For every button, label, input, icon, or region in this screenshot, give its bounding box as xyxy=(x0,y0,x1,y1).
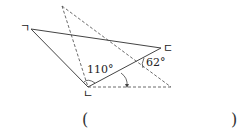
angle-label-110: 110° xyxy=(87,64,114,75)
angle-label-62: 62° xyxy=(146,57,166,68)
solid-triangle xyxy=(31,29,161,87)
triangle-diagram xyxy=(0,0,239,136)
dashed-left-edge xyxy=(62,6,88,87)
answer-close-paren: ) xyxy=(231,112,237,128)
answer-open-paren: ( xyxy=(82,112,88,128)
vertex-label-c: ㄷ xyxy=(163,43,173,54)
vertex-label-a: ㄱ xyxy=(20,23,30,34)
vertex-label-b: ㄴ xyxy=(83,89,93,100)
angle-arc-110 xyxy=(84,80,95,83)
dashed-right-edge xyxy=(62,6,171,87)
